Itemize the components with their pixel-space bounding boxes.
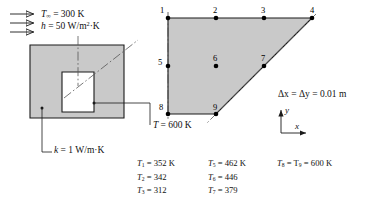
- node-label-9: 9: [213, 103, 217, 112]
- node-3: [262, 16, 267, 21]
- node-2: [214, 16, 219, 21]
- result-row-t5: T5 = 462 K: [208, 158, 246, 172]
- node-8: [166, 112, 171, 117]
- surface-temperature-label: T = 600 K: [153, 121, 192, 131]
- node-1: [166, 16, 171, 21]
- node-label-8: 8: [159, 103, 163, 112]
- figure-canvas: T∞ = 300 K h = 50 W/m2·K T = 600 K k = 1…: [0, 0, 375, 202]
- result-row-t1: T1 = 352 K: [137, 158, 175, 172]
- results-column-1: T1 = 352 K T2 = 342 T3 = 312: [137, 158, 175, 199]
- convection-arrows: [10, 14, 34, 32]
- node-label-4: 4: [310, 6, 314, 15]
- result-row-t2: T2 = 342: [137, 172, 175, 186]
- results-column-2: T5 = 462 K T6 = 446 T7 = 379: [208, 158, 246, 199]
- y-axis-label: y: [285, 106, 289, 115]
- mesh-region: [168, 18, 312, 114]
- node-6: [214, 64, 219, 69]
- node-5: [166, 64, 171, 69]
- node-label-3: 3: [261, 6, 265, 15]
- thermal-conductivity-label: k = 1 W/m·K: [54, 146, 104, 156]
- node-label-2: 2: [213, 6, 217, 15]
- node-7: [262, 64, 267, 69]
- result-row-t8-t9: T8 = T9 = 600 K: [277, 158, 332, 172]
- x-axis-label: x: [295, 122, 299, 131]
- result-row-t7: T7 = 379: [208, 185, 246, 199]
- t-infinity-label: T∞ = 300 K: [41, 10, 84, 20]
- solid-body-shape: [30, 45, 124, 118]
- grid-spacing-label: Δx = Δy = 0.01 m: [278, 90, 346, 100]
- node-label-6: 6: [213, 54, 217, 63]
- node-label-7: 7: [261, 54, 265, 63]
- result-row-t6: T6 = 446: [208, 172, 246, 186]
- node-label-1: 1: [160, 6, 164, 15]
- heat-transfer-coefficient-label: h = 50 W/m2·K: [41, 21, 100, 31]
- results-column-3: T8 = T9 = 600 K: [277, 158, 332, 172]
- result-row-t3: T3 = 312: [137, 185, 175, 199]
- node-9: [214, 112, 219, 117]
- node-4: [310, 16, 315, 21]
- mesh-outline: [168, 18, 312, 114]
- node-label-5: 5: [158, 58, 162, 67]
